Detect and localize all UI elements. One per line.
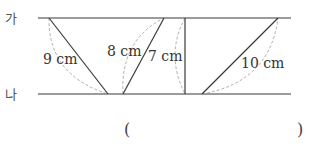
bottom-line-label: 나 — [5, 87, 17, 102]
segment-label-10cm: 10 cm — [241, 55, 284, 71]
answer-open-paren: ( — [124, 120, 130, 139]
segment-label-7cm: 7 cm — [148, 48, 182, 64]
parallel-lines-diagram: 가 나 9 cm 8 cm 7 cm 10 cm ( ) — [0, 0, 315, 149]
segment-label-8cm: 8 cm — [107, 43, 141, 59]
answer-blank[interactable] — [135, 118, 295, 140]
segment-label-9cm: 9 cm — [43, 51, 77, 67]
top-line-label: 가 — [5, 11, 17, 26]
answer-close-paren: ) — [297, 120, 303, 139]
